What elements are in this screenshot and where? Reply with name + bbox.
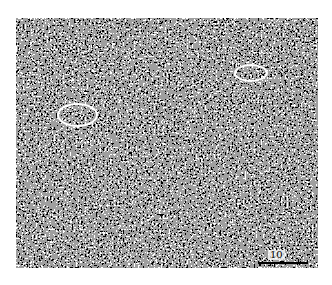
annotation-ellipse-left	[57, 103, 98, 127]
scale-bar-label: 10	[268, 250, 285, 260]
annotation-ellipse-right	[234, 64, 268, 82]
scale-bar	[258, 262, 308, 264]
noise-texture	[16, 18, 318, 268]
micrograph-image	[16, 18, 318, 268]
